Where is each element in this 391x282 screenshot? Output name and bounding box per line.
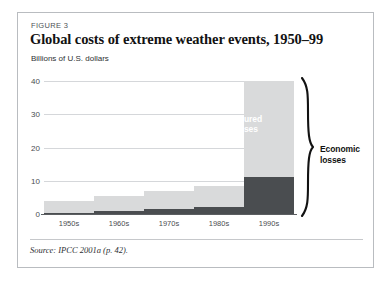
insured-losses-annotation-line1: Insured: [232, 114, 262, 124]
x-axis-tick-label: 1950s: [59, 219, 79, 228]
economic-losses-annotation-line1: Economic: [320, 144, 360, 155]
insured-losses-annotation: Insured losses: [232, 114, 262, 134]
x-axis-tick-label: 1980s: [209, 219, 229, 228]
chart-plot-area: 010203040 1950s1960s1970s1980s1990s: [44, 81, 294, 214]
bar-insured-losses: [244, 177, 294, 214]
y-axis-tick-label: 10: [31, 176, 40, 185]
x-axis-tick-label: 1990s: [259, 219, 279, 228]
x-axis-line: [41, 214, 297, 215]
y-axis-tick-label: 20: [31, 143, 40, 152]
x-axis-tick-label: 1970s: [159, 219, 179, 228]
economic-losses-annotation: Economic losses: [320, 144, 360, 165]
source-note: Source: IPCC 2001a (p. 42).: [30, 245, 128, 255]
divider: [30, 239, 363, 240]
curly-brace-icon: [300, 77, 314, 217]
figure-panel: FIGURE 3 Global costs of extreme weather…: [17, 12, 374, 268]
y-axis-tick-label: 0: [36, 210, 40, 219]
figure-kicker: FIGURE 3: [31, 21, 68, 30]
bar-insured-losses: [194, 207, 244, 214]
economic-losses-annotation-line2: losses: [320, 155, 360, 166]
page-title: Global costs of extreme weather events, …: [30, 31, 323, 48]
x-axis-tick-label: 1960s: [109, 219, 129, 228]
y-axis-tick-label: 30: [31, 110, 40, 119]
y-axis-tick-label: 40: [31, 77, 40, 86]
insured-losses-annotation-line2: losses: [232, 124, 262, 134]
y-axis-unit-label: Billions of U.S. dollars: [31, 54, 109, 63]
